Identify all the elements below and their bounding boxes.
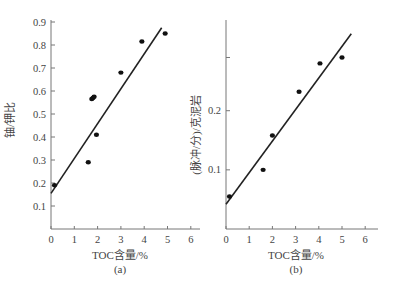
- data-point: [86, 160, 91, 164]
- y-tick-label: 0.2: [33, 178, 46, 189]
- data-point: [94, 133, 99, 137]
- x-tick-label: 2: [95, 234, 100, 245]
- y-tick-label: 0.1: [33, 201, 46, 212]
- x-tick-label: 2: [270, 234, 275, 245]
- panel-label: (a): [114, 263, 127, 276]
- data-point: [163, 31, 168, 35]
- figure: 01234560.10.20.30.40.50.60.70.80.9TOC含量/…: [0, 0, 395, 282]
- x-tick-label: 5: [165, 234, 170, 245]
- chart-panel-b: 01234560.10.2TOC含量/%(b)(脉冲/分)/克泥岩: [189, 20, 378, 276]
- x-tick-label: 3: [293, 234, 298, 245]
- x-tick-label: 5: [339, 234, 344, 245]
- chart-canvas: 01234560.10.20.30.40.50.60.70.80.9TOC含量/…: [0, 0, 395, 282]
- data-point: [317, 61, 322, 65]
- data-point: [261, 168, 266, 172]
- data-point: [139, 39, 144, 43]
- x-tick-label: 1: [72, 234, 77, 245]
- x-tick-label: 4: [142, 234, 148, 245]
- y-tick-label: 0.8: [33, 40, 46, 51]
- data-point: [270, 133, 275, 137]
- y-axis-label: (脉冲/分)/克泥岩: [189, 95, 203, 174]
- y-tick-label: 0.4: [33, 132, 47, 143]
- y-tick-label: 0.1: [208, 164, 221, 175]
- y-tick-label: 0.7: [33, 63, 46, 74]
- regression-line: [51, 28, 162, 194]
- data-point: [92, 95, 97, 99]
- y-tick-label: 0.3: [33, 155, 46, 166]
- x-axis-label: TOC含量/%: [92, 248, 148, 261]
- x-tick-label: 3: [118, 234, 123, 245]
- chart-panel-a: 01234560.10.20.30.40.50.60.70.80.9TOC含量/…: [3, 17, 200, 277]
- data-point: [118, 70, 123, 74]
- x-tick-label: 1: [247, 234, 252, 245]
- data-point: [227, 194, 232, 198]
- x-tick-label: 6: [363, 234, 368, 245]
- y-tick-label: 0.2: [208, 105, 221, 116]
- x-tick-label: 6: [188, 234, 193, 245]
- data-point: [296, 90, 301, 94]
- data-point: [339, 55, 344, 59]
- regression-line: [226, 34, 351, 204]
- y-tick-label: 0.5: [33, 109, 46, 120]
- y-axis-label: 铀/钾比: [3, 102, 16, 138]
- data-point: [52, 183, 57, 187]
- x-tick-label: 0: [223, 234, 228, 245]
- panel-label: (b): [290, 263, 303, 276]
- y-tick-label: 0.6: [33, 86, 46, 97]
- y-tick-label: 0.9: [33, 17, 46, 28]
- x-tick-label: 4: [316, 234, 322, 245]
- x-axis-label: TOC含量/%: [268, 248, 324, 261]
- x-tick-label: 0: [48, 234, 53, 245]
